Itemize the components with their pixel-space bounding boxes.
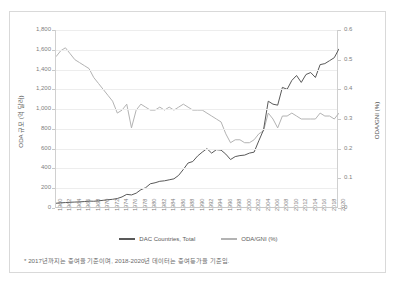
y-axis-left-tick-label: 1,200 <box>23 85 51 91</box>
y-axis-right-tick-label: 0.1 <box>344 174 366 180</box>
y-axis-left-tick-label: 400 <box>23 164 51 170</box>
y-axis-left-tick-mark <box>52 208 55 209</box>
chart-footnote: * 2017년까지는 증여율 기준이며, 2018-2020년 데이터는 증여등… <box>24 256 374 265</box>
series-lines <box>56 30 339 208</box>
y-axis-right-tick-label: 0.2 <box>344 145 366 151</box>
y-axis-left-tick-label: 600 <box>23 145 51 151</box>
legend-swatch-icon <box>221 238 237 240</box>
legend-item[interactable]: ODA/GNI (%) <box>221 236 277 242</box>
gridline <box>56 149 337 150</box>
gridline <box>56 50 337 51</box>
y-axis-left-tick-label: 200 <box>23 184 51 190</box>
y-axis-right-tick-label: 0.3 <box>344 115 366 121</box>
chart-container: ODA 규모 (억 달러) ODA/GNI (%) 02004006008001… <box>10 12 387 274</box>
chart-legend: DAC Countries, TotalODA/GNI (%) <box>10 236 387 242</box>
plot-area <box>55 30 338 208</box>
chart-card: ODA 규모 (억 달러) ODA/GNI (%) 02004006008001… <box>9 11 386 273</box>
series-line-dac-total <box>56 49 339 203</box>
legend-item-label: DAC Countries, Total <box>139 236 195 242</box>
gridline <box>56 89 337 90</box>
legend-swatch-icon <box>119 238 135 240</box>
gridline <box>56 168 337 169</box>
gridline <box>56 30 337 31</box>
y-axis-left-tick-label: 1,400 <box>23 66 51 72</box>
y-axis-left-tick-label: 0 <box>23 204 51 210</box>
gridline <box>56 109 337 110</box>
y-axis-right-tick-label: 0 <box>344 204 366 210</box>
x-axis-tick-label: 2020 <box>340 199 346 211</box>
y-axis-left-tick-label: 1,000 <box>23 105 51 111</box>
gridline <box>56 70 337 71</box>
y-axis-left-tick-label: 800 <box>23 125 51 131</box>
gridline <box>56 129 337 130</box>
y-axis-right-tick-label: 0.5 <box>344 56 366 62</box>
legend-item-label: ODA/GNI (%) <box>241 236 277 242</box>
y-axis-right-title: ODA/GNI (%) <box>373 85 380 157</box>
y-axis-left-tick-label: 1,800 <box>23 26 51 32</box>
y-axis-right-tick-label: 0.6 <box>344 26 366 32</box>
legend-item[interactable]: DAC Countries, Total <box>119 236 195 242</box>
y-axis-left-tick-label: 1,600 <box>23 46 51 52</box>
y-axis-right-tick-label: 0.4 <box>344 85 366 91</box>
gridline <box>56 188 337 189</box>
